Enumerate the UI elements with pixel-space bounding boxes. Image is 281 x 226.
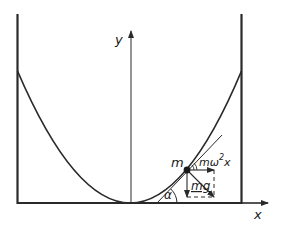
mass-label: m (171, 155, 184, 170)
x-axis-label: x (253, 207, 262, 222)
centrifugal-force-label: mω2x (199, 153, 231, 169)
gravity-force-label: mg (191, 179, 211, 193)
angle-alpha-label: α (164, 188, 172, 202)
angle-arc-at-mass-inner (192, 165, 194, 170)
mass-point (184, 167, 191, 174)
parabola-rotation-diagram: y x m mω2x mg α (0, 0, 281, 226)
angle-arc-at-mass-outer (194, 163, 197, 170)
y-axis-label: y (114, 32, 123, 47)
